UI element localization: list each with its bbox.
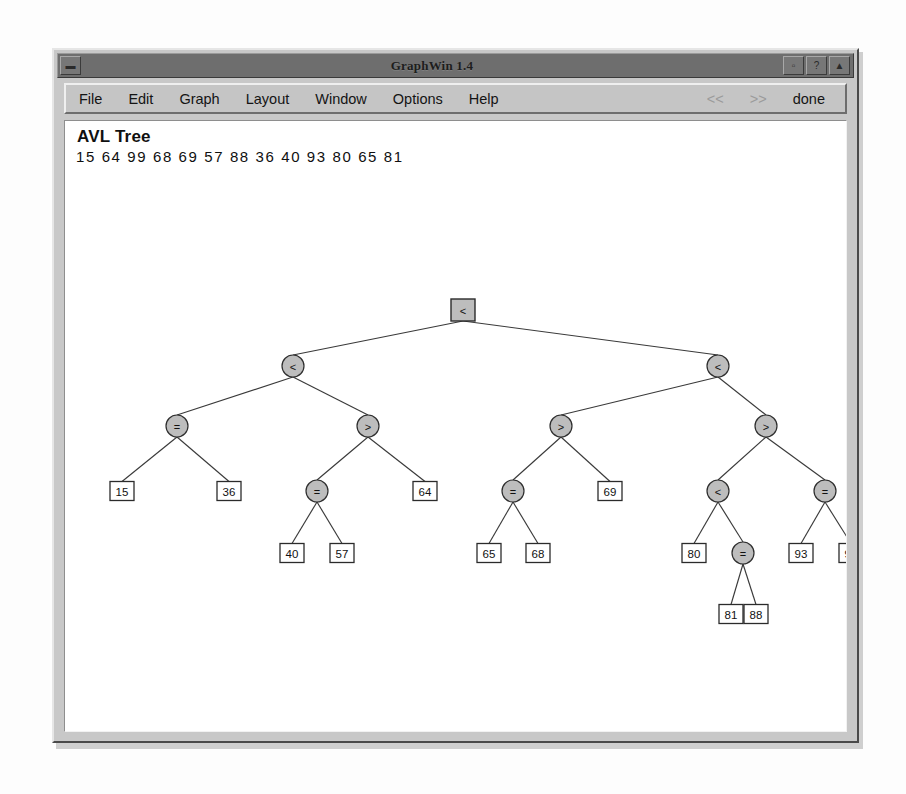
node-label: 99 bbox=[845, 548, 847, 560]
tree-edge bbox=[177, 377, 293, 415]
node-label: 68 bbox=[532, 548, 545, 560]
menu-item-window[interactable]: Window bbox=[302, 91, 380, 107]
maximize-icon: ? bbox=[807, 57, 826, 74]
node-label: = bbox=[822, 486, 828, 498]
tree-leaf-node[interactable]: 36 bbox=[217, 482, 241, 501]
menu-item-layout[interactable]: Layout bbox=[233, 91, 303, 107]
tree-edge bbox=[292, 502, 317, 544]
node-label: = bbox=[740, 548, 746, 560]
nav-prev-button[interactable]: << bbox=[694, 91, 737, 107]
tree-edge bbox=[561, 437, 610, 482]
menu-item-help[interactable]: Help bbox=[456, 91, 512, 107]
node-label: 88 bbox=[750, 609, 763, 621]
node-label: 64 bbox=[419, 486, 432, 498]
tree-edge bbox=[718, 437, 766, 480]
tree-internal-node[interactable]: = bbox=[306, 480, 328, 502]
tree-leaf-node[interactable]: 65 bbox=[477, 544, 501, 563]
tree-edge bbox=[368, 437, 425, 482]
tree-edge bbox=[513, 502, 538, 544]
tree-edge bbox=[122, 437, 177, 482]
tree-leaf-node[interactable]: 68 bbox=[526, 544, 550, 563]
menubar: File Edit Graph Layout Window Options He… bbox=[64, 83, 847, 114]
done-button[interactable]: done bbox=[780, 91, 845, 107]
node-label: 93 bbox=[795, 548, 808, 560]
tree-edge bbox=[177, 437, 229, 482]
tree-leaf-node[interactable]: 80 bbox=[682, 544, 706, 563]
tree-internal-node[interactable]: = bbox=[502, 480, 524, 502]
tree-edge bbox=[718, 502, 743, 542]
tree-edge bbox=[718, 377, 766, 415]
window-menu-button[interactable]: ▬ bbox=[60, 56, 81, 75]
window-menu-icon: ▬ bbox=[61, 57, 80, 74]
tree-leaf-node[interactable]: 93 bbox=[789, 544, 813, 563]
tree-internal-node[interactable]: < bbox=[707, 355, 729, 377]
tree-edge bbox=[293, 321, 463, 355]
tree-leaf-node[interactable]: 99 bbox=[839, 544, 847, 563]
nav-next-button[interactable]: >> bbox=[737, 91, 780, 107]
tree-edge bbox=[801, 502, 825, 544]
tree-edge bbox=[463, 321, 718, 355]
node-label: > bbox=[365, 421, 371, 433]
node-label: < bbox=[715, 486, 721, 498]
tree-internal-node[interactable]: < bbox=[282, 355, 304, 377]
tree-edge bbox=[825, 502, 847, 544]
tree-leaf-node[interactable]: 69 bbox=[598, 482, 622, 501]
tree-internal-node[interactable]: < bbox=[707, 480, 729, 502]
tree-internal-node[interactable]: > bbox=[357, 415, 379, 437]
node-label: 57 bbox=[336, 548, 349, 560]
tree-internal-node[interactable]: = bbox=[814, 480, 836, 502]
menu-item-edit[interactable]: Edit bbox=[115, 91, 166, 107]
node-label: 15 bbox=[116, 486, 129, 498]
node-label: < bbox=[460, 305, 466, 317]
node-label: = bbox=[174, 421, 180, 433]
maximize-button[interactable]: ? bbox=[806, 56, 827, 75]
tree-edge bbox=[743, 564, 756, 605]
tree-edge bbox=[694, 502, 718, 544]
tree-edge bbox=[766, 437, 825, 480]
tree-internal-node[interactable]: < bbox=[451, 299, 475, 321]
tree-internal-node[interactable]: = bbox=[732, 542, 754, 564]
node-label: 80 bbox=[688, 548, 701, 560]
node-label: < bbox=[715, 361, 721, 373]
node-label: > bbox=[558, 421, 564, 433]
tree-edge bbox=[317, 437, 368, 480]
tree-leaf-node[interactable]: 64 bbox=[413, 482, 437, 501]
tree-edge bbox=[317, 502, 342, 544]
window-control-group: ▫ ? ▲ bbox=[782, 56, 851, 75]
node-label: 36 bbox=[223, 486, 236, 498]
tree-internal-node[interactable]: > bbox=[550, 415, 572, 437]
tree-leaf-node[interactable]: 40 bbox=[280, 544, 304, 563]
tree-leaf-node[interactable]: 81 bbox=[719, 605, 743, 624]
window-title: GraphWin 1.4 bbox=[82, 58, 782, 74]
tree-leaf-node[interactable]: 57 bbox=[330, 544, 354, 563]
node-label: 81 bbox=[725, 609, 738, 621]
close-button[interactable]: ▲ bbox=[829, 56, 850, 75]
node-label: = bbox=[510, 486, 516, 498]
node-label: = bbox=[314, 486, 320, 498]
tree-node-layer: <<<=>>>1536=64=69<=4057656880=93998188 bbox=[110, 299, 847, 624]
node-label: 65 bbox=[483, 548, 496, 560]
node-label: 69 bbox=[604, 486, 617, 498]
graph-canvas[interactable]: AVL Tree 15 64 99 68 69 57 88 36 40 93 8… bbox=[64, 120, 847, 732]
menu-item-graph[interactable]: Graph bbox=[166, 91, 232, 107]
tree-edge bbox=[489, 502, 513, 544]
tree-edge bbox=[731, 564, 743, 605]
avl-tree-graphic: <<<=>>>1536=64=69<=4057656880=93998188 bbox=[65, 121, 847, 732]
tree-edge bbox=[293, 377, 368, 415]
close-icon: ▲ bbox=[830, 57, 849, 74]
graphwin-window: ▬ GraphWin 1.4 ▫ ? ▲ File Edit Graph Lay… bbox=[52, 48, 859, 743]
node-label: 40 bbox=[286, 548, 299, 560]
window-titlebar[interactable]: ▬ GraphWin 1.4 ▫ ? ▲ bbox=[57, 53, 854, 78]
minimize-icon: ▫ bbox=[784, 57, 803, 74]
tree-edge bbox=[561, 377, 718, 415]
menu-item-options[interactable]: Options bbox=[380, 91, 456, 107]
node-label: < bbox=[290, 361, 296, 373]
tree-internal-node[interactable]: > bbox=[755, 415, 777, 437]
minimize-button[interactable]: ▫ bbox=[783, 56, 804, 75]
tree-edge bbox=[513, 437, 561, 480]
menu-item-file[interactable]: File bbox=[66, 91, 115, 107]
tree-leaf-node[interactable]: 88 bbox=[744, 605, 768, 624]
tree-internal-node[interactable]: = bbox=[166, 415, 188, 437]
tree-leaf-node[interactable]: 15 bbox=[110, 482, 134, 501]
desktop-background: ▬ GraphWin 1.4 ▫ ? ▲ File Edit Graph Lay… bbox=[0, 0, 906, 794]
